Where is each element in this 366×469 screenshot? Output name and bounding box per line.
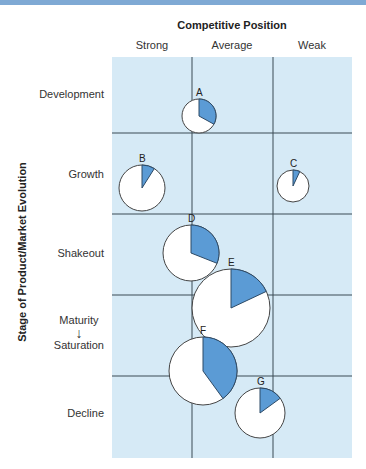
pie-label: E [228,257,235,268]
pie-label: D [188,213,195,224]
pie-label: B [139,153,146,164]
pie-label: C [290,158,297,169]
pie-label: A [196,87,203,98]
pie-label: G [257,376,265,387]
matrix-chart: ABCDEFG [0,0,366,469]
pie-label: F [200,325,206,336]
